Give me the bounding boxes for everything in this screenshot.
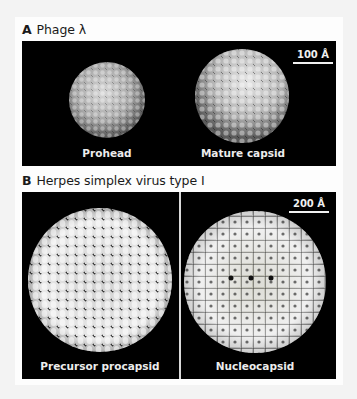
panel-a-title: Phage λ <box>37 22 86 37</box>
precursor-procapsid-particle <box>22 192 179 379</box>
scale-bar-200: 200 Å <box>289 198 329 213</box>
mature-capsid-particle <box>195 49 289 143</box>
phage-lambda-particles <box>22 41 336 166</box>
scale-bar-100: 100 Å <box>293 49 333 64</box>
nucleocapsid-label: Nucleocapsid <box>216 360 295 372</box>
panel-b-image: Precursor procapsid <box>22 192 336 379</box>
scale-bar-line <box>289 211 329 213</box>
mature-capsid-label: Mature capsid <box>201 147 285 159</box>
panel-b-letter: B <box>22 173 31 188</box>
panel-a-letter: A <box>22 22 32 37</box>
panel-a-heading: APhage λ <box>22 22 86 37</box>
prohead-label: Prohead <box>82 147 131 159</box>
panel-b-heading: BHerpes simplex virus type I <box>22 173 205 188</box>
panel-a-image: 100 Å Prohead Mature capsid <box>22 41 336 166</box>
scale-bar-label: 200 Å <box>293 198 325 209</box>
precursor-procapsid-label: Precursor procapsid <box>40 360 159 372</box>
prohead-particle <box>69 62 145 138</box>
scale-bar-label: 100 Å <box>297 49 329 60</box>
panel-b-title: Herpes simplex virus type I <box>36 173 204 188</box>
procapsid-subpanel: Precursor procapsid <box>22 192 179 379</box>
scale-bar-line <box>293 62 333 64</box>
nucleocapsid-particle <box>181 192 336 379</box>
nucleocapsid-subpanel: 200 Å Nucleocapsid <box>181 192 336 379</box>
